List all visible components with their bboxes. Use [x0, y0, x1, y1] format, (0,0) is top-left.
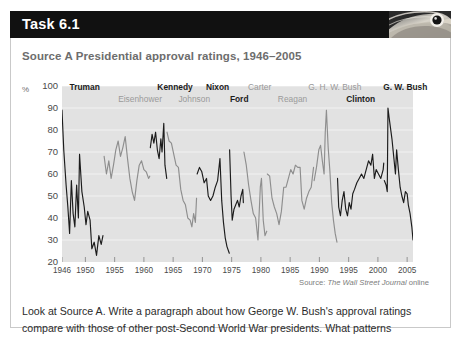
approval-ratings-chart: % 1009080706050403020 194619501955196019…	[0, 80, 458, 292]
y-tick-90: 90	[28, 102, 58, 113]
chart-lines	[62, 86, 413, 262]
series-line	[104, 137, 150, 201]
source-publication: The Wall Street Journal	[327, 278, 406, 287]
chart-source-attribution: Source: The Wall Street Journal online	[299, 278, 429, 287]
source-suffix: online	[407, 278, 429, 287]
source-prefix: Source:	[299, 278, 327, 287]
series-line	[62, 110, 103, 255]
series-line	[167, 132, 197, 227]
president-label-truman: Truman	[70, 82, 100, 92]
x-tick-1965: 1965	[158, 266, 188, 275]
x-tick-2000: 2000	[363, 266, 393, 275]
y-tick-40: 40	[28, 212, 58, 223]
eagle-head-icon	[389, 11, 451, 38]
y-tick-70: 70	[28, 146, 58, 157]
x-tick-1950: 1950	[70, 266, 100, 275]
x-tick-1990: 1990	[304, 266, 334, 275]
y-tick-60: 60	[28, 168, 58, 179]
y-tick-100: 100	[28, 80, 58, 91]
president-label-clinton: Clinton	[346, 94, 375, 104]
x-tick-1985: 1985	[275, 266, 305, 275]
series-line	[338, 154, 384, 216]
president-label-nixon: Nixon	[206, 82, 229, 92]
president-label-johnson: Johnson	[178, 94, 210, 104]
president-label-g-h-w-bush: G. H. W. Bush	[308, 82, 361, 92]
task-title: Task 6.1	[22, 16, 80, 32]
president-label-ford: Ford	[230, 94, 249, 104]
x-tick-1960: 1960	[129, 266, 159, 275]
y-tick-30: 30	[28, 234, 58, 245]
x-tick-2005: 2005	[392, 266, 422, 275]
president-label-g-w-bush: G. W. Bush	[383, 82, 427, 92]
president-label-carter: Carter	[248, 82, 271, 92]
chart-plot-area	[62, 86, 413, 262]
president-label-reagan: Reagan	[278, 94, 307, 104]
series-line	[197, 159, 229, 254]
y-tick-80: 80	[28, 124, 58, 135]
president-label-kennedy: Kennedy	[157, 82, 192, 92]
source-heading: Source A Presidential approval ratings, …	[22, 50, 302, 62]
x-tick-1970: 1970	[187, 266, 217, 275]
x-tick-1955: 1955	[100, 266, 130, 275]
series-line	[150, 123, 166, 178]
task-body-text: Look at Source A. Write a paragraph abou…	[22, 303, 436, 337]
y-tick-50: 50	[28, 190, 58, 201]
task-header-bar: Task 6.1	[10, 11, 451, 38]
series-line	[230, 150, 244, 220]
x-tick-1975: 1975	[217, 266, 247, 275]
president-label-eisenhower: Eisenhower	[118, 94, 162, 104]
x-tick-1995: 1995	[334, 266, 364, 275]
x-tick-1980: 1980	[246, 266, 276, 275]
page-root: Task 6.1	[0, 0, 458, 341]
